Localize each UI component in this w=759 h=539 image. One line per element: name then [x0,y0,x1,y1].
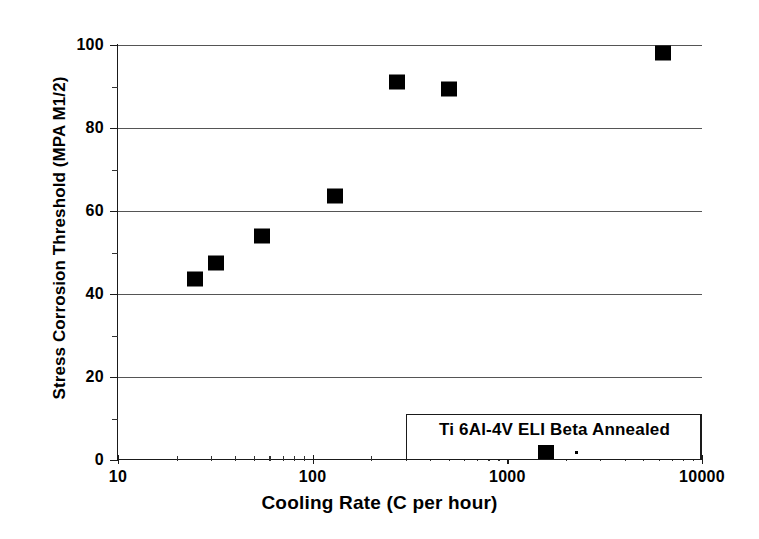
x-minor-tick-60 [269,456,270,461]
x-minor-tick-200 [371,456,372,461]
y-tick-label-60: 60 [86,202,104,220]
data-point-1 [208,255,224,270]
data-point-4 [389,75,405,90]
data-point-6 [655,46,671,61]
x-tick-label-1000: 1000 [489,468,526,486]
x-tick-100 [313,455,314,464]
y-tick-60 [110,211,118,212]
y-minor-tick-70 [112,170,118,171]
plot-area [118,45,702,460]
x-minor-tick-20 [177,456,178,461]
y-tick-label-100: 100 [76,36,104,54]
legend-box: Ti 6Al-4V ELI Beta Annealed [406,414,701,460]
data-point-0 [187,272,203,287]
data-point-3 [327,189,343,204]
y-tick-40 [110,294,118,295]
data-point-2 [254,228,270,243]
y-tick-label-0: 0 [95,451,104,469]
chart-figure: 020406080100 10100100010000 Cooling Rate… [0,0,759,539]
y-tick-100 [110,45,118,46]
y-axis-title-wrapper: Stress Corrosion Threshold (MPA M1/2) [50,28,70,448]
x-tick-label-10: 10 [109,468,127,486]
y-tick-80 [110,128,118,129]
x-minor-tick-90 [304,456,305,461]
y-tick-label-40: 40 [86,285,104,303]
x-minor-tick-30 [211,456,212,461]
y-minor-tick-50 [112,253,118,254]
x-axis-title: Cooling Rate (C per hour) [0,492,759,514]
x-tick-label-10000: 10000 [679,468,725,486]
y-tick-20 [110,377,118,378]
gridline-20 [118,377,702,378]
y-tick-0 [110,460,118,461]
legend-dot-icon [575,451,578,454]
y-minor-tick-10 [112,419,118,420]
y-tick-label-80: 80 [86,119,104,137]
x-tick-10 [118,455,119,464]
gridline-40 [118,294,702,295]
x-minor-tick-50 [254,456,255,461]
gridline-60 [118,211,702,212]
x-minor-tick-70 [283,456,284,461]
filled-square-marker-icon [538,445,554,459]
y-tick-label-20: 20 [86,368,104,386]
legend-label: Ti 6Al-4V ELI Beta Annealed [407,420,702,440]
y-minor-tick-90 [112,87,118,88]
x-tick-label-100: 100 [299,468,327,486]
y-axis-title: Stress Corrosion Threshold (MPA M1/2) [50,77,69,400]
gridline-100 [118,45,702,46]
x-minor-tick-40 [235,456,236,461]
y-minor-tick-30 [112,336,118,337]
x-tick-10000 [702,455,703,464]
data-point-5 [441,81,457,96]
gridline-80 [118,128,702,129]
x-minor-tick-80 [294,456,295,461]
